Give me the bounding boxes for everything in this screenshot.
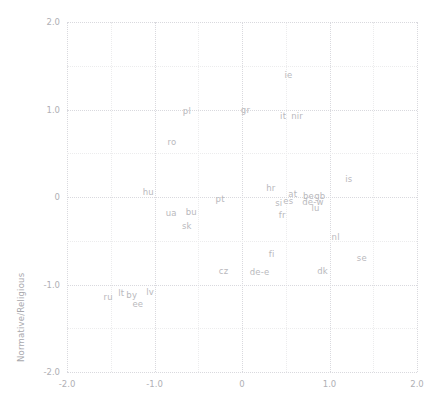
grid-line-vertical [155, 22, 156, 372]
data-point-label: es [283, 197, 293, 206]
x-axis-tick-label: 1.0 [323, 380, 337, 389]
data-point-label: si [275, 199, 282, 208]
data-point-label: it [280, 111, 286, 120]
data-point-label: lv [146, 288, 154, 297]
grid-line-horizontal [67, 22, 417, 23]
grid-line-vertical [111, 22, 112, 372]
data-point-label: nir [291, 111, 303, 120]
data-point-label: ru [103, 293, 112, 302]
data-point-label: nl [332, 233, 340, 242]
data-point-label: pl [183, 107, 191, 116]
data-point-label: fr [279, 210, 286, 219]
grid-line-horizontal [67, 197, 417, 198]
x-axis-tick-label: -2.0 [59, 380, 76, 389]
data-point-label: lt [118, 289, 124, 298]
data-point-label: ro [168, 138, 177, 147]
x-axis-tick-label: 2.0 [410, 380, 424, 389]
data-point-label: pt [216, 195, 225, 204]
grid-lines [67, 22, 417, 372]
data-point-label: hu [143, 188, 154, 197]
data-point-label: lu [311, 204, 319, 213]
grid-line-vertical [67, 22, 68, 372]
grid-line-horizontal [67, 66, 417, 67]
data-point-label: cz [219, 267, 229, 276]
data-point-label: bu [186, 208, 197, 217]
y-axis-tick-label: -2.0 [43, 368, 60, 377]
grid-line-horizontal [67, 241, 417, 242]
data-point-label: hr [266, 184, 275, 193]
grid-line-horizontal [67, 153, 417, 154]
data-point-label: gr [241, 106, 250, 115]
grid-line-vertical [242, 22, 243, 372]
data-point-label: dk [317, 267, 328, 276]
data-point-label: ee [132, 300, 143, 309]
data-point-label: de-e [250, 268, 270, 277]
grid-line-horizontal [67, 372, 417, 373]
grid-line-vertical [373, 22, 374, 372]
grid-line-vertical [330, 22, 331, 372]
grid-line-horizontal [67, 285, 417, 286]
data-point-label: fi [269, 250, 275, 259]
grid-line-vertical [417, 22, 418, 372]
y-axis-tick-label: -1.0 [43, 280, 60, 289]
grid-line-horizontal [67, 328, 417, 329]
y-axis-title: Normative/Religious [16, 273, 26, 362]
data-point-label: ie [284, 70, 292, 79]
y-axis-tick-label: 1.0 [46, 105, 60, 114]
data-point-label: sk [182, 222, 192, 231]
x-axis-tick-label: -1.0 [146, 380, 163, 389]
x-axis-tick-label: 0 [239, 380, 244, 389]
y-axis-tick-label: 2.0 [46, 18, 60, 27]
data-point-label: is [345, 174, 352, 183]
data-point-label: se [357, 254, 367, 263]
y-axis-tick-label: 0 [55, 193, 60, 202]
plot-area: ieplgritnirroishrhuatbegbptesde-wsilufru… [67, 22, 417, 372]
grid-line-vertical [198, 22, 199, 372]
scatter-plot-figure: ieplgritnirroishrhuatbegbptesde-wsilufru… [0, 0, 440, 400]
data-point-label: ua [166, 209, 177, 218]
